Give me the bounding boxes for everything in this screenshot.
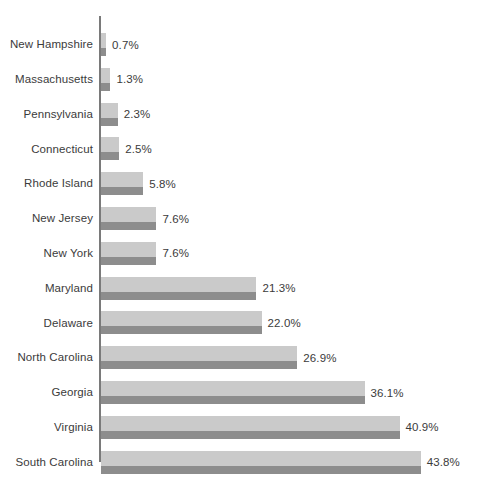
bar-value-label: 40.9%: [406, 416, 439, 439]
bar-category-label: Georgia: [0, 375, 93, 410]
bar-value-label: 7.6%: [162, 242, 189, 265]
bar-row: Maryland21.3%: [0, 271, 478, 306]
bar-value-label: 2.3%: [124, 103, 151, 126]
bar-segment-dark: [101, 466, 421, 474]
bar-value-label: 2.5%: [125, 137, 152, 160]
bar-category-label: Massachusetts: [0, 62, 93, 97]
bar-segment-light: [101, 381, 365, 396]
bar-row: Rhode Island5.8%: [0, 166, 478, 201]
bar-row: New Jersey7.6%: [0, 201, 478, 236]
bar: [101, 381, 365, 404]
bar-row: North Carolina26.9%: [0, 340, 478, 375]
bar-segment-dark: [101, 187, 143, 195]
bar-segment-dark: [101, 431, 400, 439]
bar-segment-light: [101, 68, 110, 83]
bar-row: Virginia40.9%: [0, 410, 478, 445]
bar-value-label: 5.8%: [149, 172, 176, 195]
bar: [101, 207, 156, 230]
bar-segment-light: [101, 242, 156, 257]
bar-segment-dark: [101, 83, 110, 91]
bar: [101, 103, 118, 126]
bar: [101, 172, 143, 195]
bar-segment-light: [101, 207, 156, 222]
bar-segment-dark: [101, 292, 256, 300]
bar-segment-light: [101, 277, 256, 292]
bar: [101, 346, 297, 369]
bar-segment-light: [101, 416, 400, 431]
bar-category-label: South Carolina: [0, 445, 93, 480]
bar-chart: New Hampshire0.7%Massachusetts1.3%Pennsy…: [0, 0, 478, 483]
bar-segment-dark: [101, 326, 262, 334]
bar-segment-light: [101, 451, 421, 466]
bar-value-label: 22.0%: [268, 311, 301, 334]
bar-segment-dark: [101, 48, 106, 56]
bar-row: New Hampshire0.7%: [0, 27, 478, 62]
bar-segment-light: [101, 311, 262, 326]
bar-segment-light: [101, 346, 297, 361]
bar-segment-dark: [101, 152, 119, 160]
bar: [101, 416, 400, 439]
bar: [101, 311, 262, 334]
bar-value-label: 43.8%: [427, 451, 460, 474]
bar-category-label: Rhode Island: [0, 166, 93, 201]
bar-category-label: Connecticut: [0, 131, 93, 166]
bar-category-label: North Carolina: [0, 340, 93, 375]
bar-segment-dark: [101, 257, 156, 265]
bar-category-label: New Hampshire: [0, 27, 93, 62]
bar: [101, 68, 110, 91]
bar-value-label: 0.7%: [112, 33, 139, 56]
bar-value-label: 36.1%: [371, 381, 404, 404]
bar-segment-dark: [101, 396, 365, 404]
bar-category-label: Maryland: [0, 271, 93, 306]
bar: [101, 33, 106, 56]
bar-segment-dark: [101, 361, 297, 369]
bar: [101, 451, 421, 474]
bar-row: Massachusetts1.3%: [0, 62, 478, 97]
bar-value-label: 26.9%: [303, 346, 336, 369]
bar-segment-light: [101, 137, 119, 152]
bar-category-label: Virginia: [0, 410, 93, 445]
bar-category-label: Pennsylvania: [0, 97, 93, 132]
bar-value-label: 21.3%: [262, 277, 295, 300]
bar-category-label: New York: [0, 236, 93, 271]
bar-row: Connecticut2.5%: [0, 131, 478, 166]
bar-segment-light: [101, 103, 118, 118]
bar-segment-light: [101, 172, 143, 187]
bar-segment-dark: [101, 222, 156, 230]
bar-row: Delaware22.0%: [0, 305, 478, 340]
bar: [101, 137, 119, 160]
bar-value-label: 1.3%: [116, 68, 143, 91]
bar-category-label: New Jersey: [0, 201, 93, 236]
bar-category-label: Delaware: [0, 305, 93, 340]
bar: [101, 242, 156, 265]
bar-row: New York7.6%: [0, 236, 478, 271]
bar-row: Pennsylvania2.3%: [0, 97, 478, 132]
plot-area: New Hampshire0.7%Massachusetts1.3%Pennsy…: [0, 0, 478, 483]
bar-row: Georgia36.1%: [0, 375, 478, 410]
bar-value-label: 7.6%: [162, 207, 189, 230]
bar: [101, 277, 256, 300]
bar-row: South Carolina43.8%: [0, 445, 478, 480]
bar-segment-dark: [101, 118, 118, 126]
bar-segment-light: [101, 33, 106, 48]
